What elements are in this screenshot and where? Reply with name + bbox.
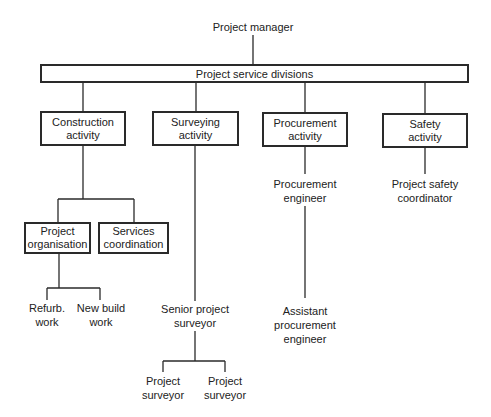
project-manager-label: Project manager bbox=[213, 20, 294, 34]
new-build-work-label: New buildwork bbox=[77, 301, 125, 329]
project-safety-coordinator-label: Project safetycoordinator bbox=[392, 177, 459, 205]
procurement-engineer-label: Procurementengineer bbox=[274, 177, 337, 205]
procurement-activity-box: Procurementactivity bbox=[262, 112, 348, 147]
project-surveyor-label-1: Projectsurveyor bbox=[142, 374, 184, 402]
senior-project-surveyor-label: Senior projectsurveyor bbox=[161, 302, 229, 330]
assistant-procurement-engineer-label: Assistantprocurementengineer bbox=[274, 304, 336, 346]
project-service-divisions-bar: Project service divisions bbox=[40, 64, 469, 83]
connector-lines bbox=[0, 0, 491, 417]
refurb-work-label: Refurb.work bbox=[29, 301, 65, 329]
surveying-activity-box: Surveyingactivity bbox=[152, 111, 239, 146]
safety-activity-box: Safetyactivity bbox=[382, 113, 468, 148]
construction-activity-box: Constructionactivity bbox=[40, 111, 126, 146]
services-coordination-box: Servicescoordination bbox=[98, 222, 169, 254]
project-organisation-box: Projectorganisation bbox=[24, 222, 91, 254]
project-surveyor-label-2: Projectsurveyor bbox=[204, 374, 246, 402]
